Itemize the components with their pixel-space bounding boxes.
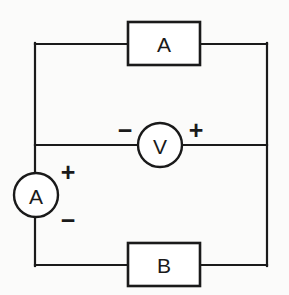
ammeter-positive-terminal-icon: + [61,158,76,186]
component-box-a-label: A [157,33,171,56]
voltmeter-label: V [153,135,167,158]
voltmeter-negative-terminal-icon: − [118,116,133,144]
ammeter-label: A [29,185,43,208]
circuit-schematic-svg: A B V − + A + − [0,0,289,295]
circuit-diagram: A B V − + A + − [0,0,289,295]
ammeter-negative-terminal-icon: − [61,206,76,234]
component-box-b-label: B [157,254,171,277]
voltmeter-positive-terminal-icon: + [189,116,204,144]
